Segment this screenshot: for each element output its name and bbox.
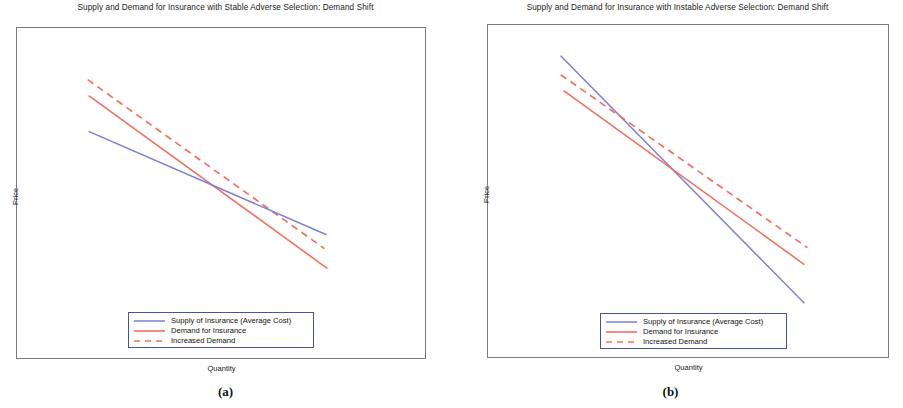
plot-area-b bbox=[487, 24, 889, 358]
chart-title-a: Supply and Demand for Insurance with Sta… bbox=[0, 3, 451, 12]
subfigure-caption-b: (b) bbox=[452, 384, 889, 400]
figure-root: Supply and Demand for Insurance with Sta… bbox=[0, 0, 903, 408]
y-axis-label-a: Price bbox=[11, 188, 20, 205]
legend-item-supply-a: Supply of Insurance (Average Cost) bbox=[133, 316, 308, 326]
x-axis-label-a: Quantity bbox=[0, 364, 443, 373]
legend-a: Supply of Insurance (Average Cost) Deman… bbox=[128, 312, 314, 348]
legend-item-increased-demand-b: Increased Demand bbox=[605, 337, 781, 347]
x-axis-label-b: Quantity bbox=[452, 363, 903, 372]
series-line-increased-demand-a bbox=[88, 80, 325, 249]
series-line-increased-demand-b bbox=[561, 75, 808, 248]
subfigure-caption-a: (a) bbox=[0, 384, 451, 400]
legend-label-increased-demand-b: Increased Demand bbox=[643, 337, 707, 347]
series-line-supply-b bbox=[561, 56, 805, 304]
legend-swatch-increased-demand-line-a bbox=[133, 336, 166, 346]
legend-label-supply-a: Supply of Insurance (Average Cost) bbox=[171, 316, 291, 326]
plot-area-a bbox=[16, 27, 426, 359]
legend-swatch-demand-line-b bbox=[605, 327, 638, 337]
plot-lines-b bbox=[488, 25, 888, 357]
legend-label-demand-b: Demand for Insurance bbox=[643, 327, 718, 337]
legend-swatch-increased-demand-line-b bbox=[605, 337, 638, 347]
legend-swatch-supply-line-b bbox=[605, 317, 638, 327]
legend-label-increased-demand-a: Increased Demand bbox=[171, 336, 235, 346]
chart-title-b: Supply and Demand for Insurance with Ins… bbox=[452, 3, 903, 12]
legend-label-supply-b: Supply of Insurance (Average Cost) bbox=[643, 317, 763, 327]
legend-item-supply-b: Supply of Insurance (Average Cost) bbox=[605, 317, 781, 327]
y-axis-label-b: Price bbox=[482, 186, 491, 203]
legend-swatch-supply-line-a bbox=[133, 316, 166, 326]
legend-b: Supply of Insurance (Average Cost) Deman… bbox=[600, 313, 787, 349]
series-line-demand-a bbox=[89, 96, 328, 269]
figure-panel-a: Supply and Demand for Insurance with Sta… bbox=[0, 0, 451, 408]
legend-label-demand-a: Demand for Insurance bbox=[171, 326, 246, 336]
series-line-supply-a bbox=[89, 131, 327, 234]
legend-item-demand-b: Demand for Insurance bbox=[605, 327, 781, 337]
legend-item-demand-a: Demand for Insurance bbox=[133, 326, 308, 336]
legend-swatch-demand-line-a bbox=[133, 326, 166, 336]
plot-lines-a bbox=[17, 28, 425, 358]
legend-item-increased-demand-a: Increased Demand bbox=[133, 336, 308, 346]
series-line-demand-b bbox=[564, 91, 805, 265]
figure-panel-b: Supply and Demand for Insurance with Ins… bbox=[452, 0, 903, 408]
